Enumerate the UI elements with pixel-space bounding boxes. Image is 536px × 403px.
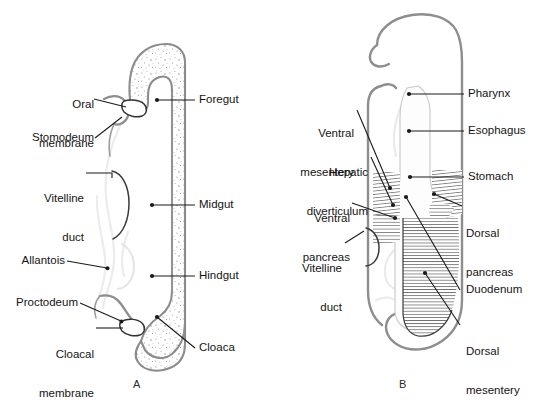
label-stomodeum: Stomodeum <box>10 131 94 144</box>
label-foregut: Foregut <box>199 93 239 106</box>
label-pharynx: Pharynx <box>468 87 510 100</box>
label-oral-membrane-line1: Oral <box>18 98 94 111</box>
label-cloacal-membrane-line2: membrane <box>16 387 94 400</box>
panel-b-jaw-fold <box>381 84 396 88</box>
allantois-loop-a <box>118 244 134 289</box>
label-vitelline-duct-b: Vitelline duct <box>288 236 342 340</box>
leader-proctodeum <box>80 303 121 321</box>
label-stomach: Stomach <box>468 170 513 183</box>
embryo-gut-development-figure: Oral membrane Stomodeum Vitelline duct A… <box>0 0 536 403</box>
panel-a-body-ghost <box>97 126 128 308</box>
label-cloacal-membrane: Cloacal membrane <box>16 322 94 403</box>
label-vitelline-duct-a-line1: Vitelline <box>12 192 84 205</box>
oral-membrane-loop <box>122 100 147 117</box>
label-cloacal-membrane-line1: Cloacal <box>16 348 94 361</box>
label-esophagus: Esophagus <box>468 124 526 137</box>
panel-b-head-fold <box>370 45 389 67</box>
label-cloaca: Cloaca <box>199 341 235 354</box>
dorsal-pancreas-hatch <box>429 203 454 220</box>
label-vitelline-duct-b-line1: Vitelline <box>288 262 342 275</box>
label-vitelline-duct-a-line2: duct <box>12 231 84 244</box>
leader-stomodeum <box>95 117 122 138</box>
label-midgut: Midgut <box>199 198 234 211</box>
label-duodenum: Duodenum <box>466 283 522 296</box>
label-dorsal-mesentery-line2: mesentery <box>466 384 536 397</box>
label-proctodeum: Proctodeum <box>2 296 78 309</box>
duodenum-dorsal-mesentery-hatch <box>403 218 459 336</box>
panel-letter-a: A <box>133 378 140 390</box>
label-ventral-mesentery-line1: Ventral <box>286 127 354 140</box>
vitelline-duct-loop-a <box>112 171 129 239</box>
label-oral-membrane: Oral membrane <box>18 72 94 176</box>
label-dorsal-pancreas-line1: Dorsal <box>466 227 536 240</box>
label-dorsal-mesentery: Dorsal mesentery <box>466 319 536 403</box>
leader-oral-membrane <box>94 99 126 107</box>
label-hindgut: Hindgut <box>199 269 239 282</box>
panel-letter-b: B <box>399 378 406 390</box>
proctodeum-fold-left <box>95 296 100 318</box>
label-vitelline-duct-b-line2: duct <box>288 301 342 314</box>
label-hepatic-diverticulum-line1: Hepatic <box>278 166 368 179</box>
label-dorsal-mesentery-line1: Dorsal <box>466 345 536 358</box>
label-ventral-pancreas-line1: Ventral <box>286 212 350 225</box>
cloacal-membrane-loop <box>120 319 145 336</box>
label-allantois: Allantois <box>6 254 65 267</box>
label-dorsal-pancreas-line2: pancreas <box>466 266 536 279</box>
